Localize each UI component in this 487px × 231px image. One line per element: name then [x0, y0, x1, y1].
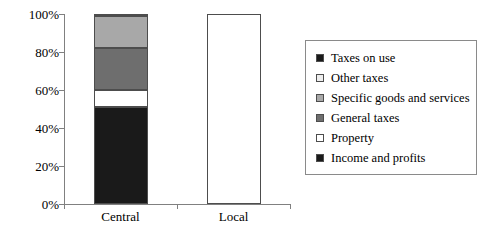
bar-segment [94, 90, 148, 107]
legend-item[interactable]: Property [316, 128, 476, 148]
legend-swatch-icon [316, 114, 324, 122]
bar-segment [94, 14, 148, 16]
bar-central [94, 14, 148, 204]
legend-label: Other taxes [331, 72, 388, 85]
y-tick-label: 20% [35, 160, 59, 173]
x-category-label-central: Central [64, 210, 177, 223]
x-category-label-local: Local [177, 210, 290, 223]
legend-label: Income and profits [331, 152, 425, 165]
legend-swatch-icon [316, 94, 324, 102]
stacked-bar-chart: 0%20%40%60%80%100% CentralLocal Taxes on… [0, 0, 487, 231]
y-tick-mark [59, 14, 64, 15]
bar-local [207, 14, 261, 204]
plot-area: 0%20%40%60%80%100% CentralLocal [64, 14, 290, 204]
legend-item[interactable]: General taxes [316, 108, 476, 128]
bar-segment [94, 107, 148, 204]
y-tick-label: 100% [29, 8, 59, 21]
legend: Taxes on useOther taxesSpecific goods an… [305, 40, 477, 175]
legend-item[interactable]: Other taxes [316, 68, 476, 88]
y-axis-line [64, 14, 65, 204]
y-tick-label: 40% [35, 122, 59, 135]
legend-swatch-icon [316, 154, 324, 162]
legend-swatch-icon [316, 54, 324, 62]
legend-item[interactable]: Income and profits [316, 148, 476, 168]
bar-segment [94, 16, 148, 48]
y-tick-label: 60% [35, 84, 59, 97]
y-tick-label: 80% [35, 46, 59, 59]
legend-swatch-icon [316, 74, 324, 82]
legend-items: Taxes on useOther taxesSpecific goods an… [316, 48, 476, 168]
legend-label: General taxes [331, 112, 399, 125]
bar-segment [207, 14, 261, 204]
y-tick-label: 0% [42, 198, 59, 211]
y-tick-mark [59, 90, 64, 91]
bar-segment [94, 48, 148, 90]
legend-label: Taxes on use [331, 52, 395, 65]
legend-label: Property [331, 132, 374, 145]
y-tick-mark [59, 166, 64, 167]
legend-item[interactable]: Specific goods and services [316, 88, 476, 108]
x-tick-mark [64, 204, 65, 209]
y-tick-mark [59, 52, 64, 53]
x-tick-mark [290, 204, 291, 209]
legend-label: Specific goods and services [331, 92, 470, 105]
legend-swatch-icon [316, 134, 324, 142]
y-tick-mark [59, 128, 64, 129]
legend-item[interactable]: Taxes on use [316, 48, 476, 68]
x-tick-mark [177, 204, 178, 209]
